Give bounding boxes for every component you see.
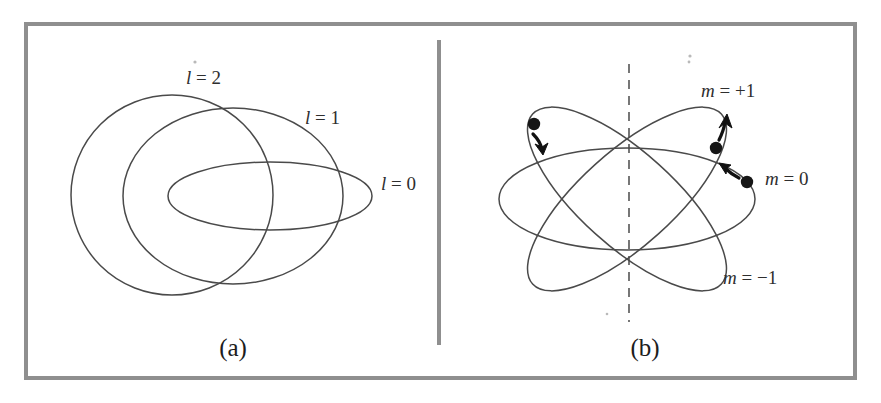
scan-speck	[688, 61, 691, 64]
figure-page: l = 2 l = 1 l = 0 (a)	[0, 0, 881, 403]
orbit-l-2	[71, 95, 273, 295]
panel-a-group: l = 2 l = 1 l = 0 (a)	[71, 67, 416, 362]
label-l-2: l = 2	[186, 67, 221, 88]
scan-speck	[606, 313, 609, 316]
orbital-figure: l = 2 l = 1 l = 0 (a)	[0, 0, 881, 403]
electron-dot-upper-left	[528, 118, 540, 130]
electron-dot-right-lower	[741, 176, 753, 188]
orbit-m-minus-1	[501, 79, 753, 319]
caption-b: (b)	[630, 334, 659, 362]
scan-speck	[688, 54, 691, 57]
label-l-0: l = 0	[381, 173, 416, 194]
panel-b-group: m = +1 m = 0 m = −1 (b)	[499, 64, 808, 362]
orbit-m-0	[499, 148, 755, 250]
electron-dot-right-upper	[710, 142, 722, 154]
label-m-0: m = 0	[765, 168, 808, 189]
label-m-plus-1: m = +1	[701, 80, 755, 101]
label-m-minus-1: m = −1	[723, 267, 777, 288]
scan-speck	[193, 60, 196, 63]
orbit-m-plus-1	[501, 79, 753, 319]
caption-a: (a)	[219, 334, 247, 362]
label-l-1: l = 1	[305, 107, 340, 128]
orbit-l-1	[123, 108, 343, 284]
